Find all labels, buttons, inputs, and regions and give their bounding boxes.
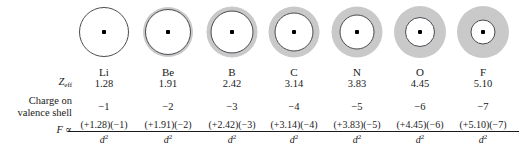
zeff-value-f: 5.10 <box>443 78 523 90</box>
nucleus-icon <box>292 30 296 34</box>
atom-diagram-row <box>0 0 524 64</box>
atom-shell-stack <box>388 0 452 64</box>
distance-symbol: d <box>290 134 295 145</box>
force-denominator: d2 <box>68 132 140 148</box>
nucleus-icon <box>355 30 359 34</box>
force-numerator: (+1.28)(−1) <box>68 119 140 132</box>
nucleus-icon <box>166 30 170 34</box>
force-symbol: F <box>56 124 62 135</box>
row-label-column: Zeff Charge on valence shell F∝ <box>0 0 72 160</box>
atom-shell-stack <box>72 0 136 64</box>
atom-shell-o <box>388 0 452 64</box>
atom-shell-stack <box>451 0 515 64</box>
force-expression-f: (+5.10)(−7)d2 <box>447 119 519 148</box>
force-numerator: (+3.14)(−4) <box>258 119 330 132</box>
force-denominator: d2 <box>321 132 393 148</box>
force-denominator: d2 <box>384 132 456 148</box>
distance-exponent: 2 <box>358 133 362 141</box>
distance-symbol: d <box>164 134 169 145</box>
force-expression-c: (+3.14)(−4)d2 <box>258 119 330 148</box>
atom-shell-f <box>451 0 515 64</box>
nucleus-icon <box>418 30 422 34</box>
force-denominator: d2 <box>132 132 204 148</box>
element-symbol-f: F <box>443 66 523 78</box>
distance-symbol: d <box>479 134 484 145</box>
nucleus-icon <box>481 30 485 34</box>
atomic-radius-figure: Zeff Charge on valence shell F∝ Li1.28−1… <box>0 0 524 160</box>
atom-shell-li <box>72 0 136 64</box>
force-expression-li: (+1.28)(−1)d2 <box>68 119 140 148</box>
force-numerator: (+5.10)(−7) <box>447 119 519 132</box>
atom-shell-b <box>200 0 264 64</box>
nucleus-icon <box>102 30 106 34</box>
force-numerator: (+1.91)(−2) <box>132 119 204 132</box>
distance-symbol: d <box>228 134 233 145</box>
valence-charge-f: −7 <box>443 101 523 113</box>
distance-exponent: 2 <box>295 133 299 141</box>
force-expression-o: (+4.45)(−6)d2 <box>384 119 456 148</box>
distance-exponent: 2 <box>421 133 425 141</box>
distance-symbol: d <box>100 134 105 145</box>
atom-shell-stack <box>200 0 264 64</box>
force-denominator: d2 <box>258 132 330 148</box>
atom-shell-stack <box>136 0 200 64</box>
force-numerator: (+3.83)(−5) <box>321 119 393 132</box>
nucleus-icon <box>230 30 234 34</box>
atom-shell-stack <box>262 0 326 64</box>
force-numerator: (+4.45)(−6) <box>384 119 456 132</box>
distance-exponent: 2 <box>169 133 173 141</box>
atom-shell-n <box>325 0 389 64</box>
force-expression-n: (+3.83)(−5)d2 <box>321 119 393 148</box>
force-expression-be: (+1.91)(−2)d2 <box>132 119 204 148</box>
atom-shell-be <box>136 0 200 64</box>
distance-exponent: 2 <box>484 133 488 141</box>
distance-exponent: 2 <box>233 133 237 141</box>
distance-symbol: d <box>353 134 358 145</box>
distance-symbol: d <box>416 134 421 145</box>
distance-exponent: 2 <box>105 133 109 141</box>
atom-shell-c <box>262 0 326 64</box>
atom-shell-stack <box>325 0 389 64</box>
force-denominator: d2 <box>447 132 519 148</box>
